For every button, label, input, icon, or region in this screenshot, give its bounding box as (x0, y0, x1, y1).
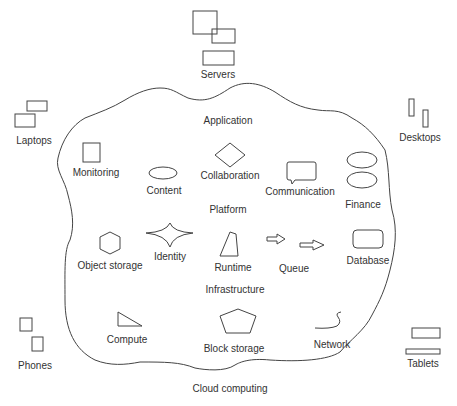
tablet-icon-1 (412, 328, 440, 338)
object-storage-label: Object storage (77, 260, 142, 272)
server-icon-1 (193, 11, 217, 34)
network-icon (315, 312, 341, 328)
block-storage-icon (220, 309, 256, 333)
phone-icon-1 (20, 318, 32, 331)
monitoring-icon (83, 143, 100, 162)
finance-icon-1 (347, 152, 377, 168)
server-icon-3 (203, 51, 234, 65)
finance-icon-2 (347, 172, 377, 188)
tablets-label: Tablets (407, 358, 439, 370)
servers-label: Servers (201, 69, 235, 81)
object-storage-icon (100, 232, 120, 254)
application-layer-label: Application (204, 115, 253, 127)
collaboration-icon (215, 143, 245, 167)
block-storage-label: Block storage (204, 343, 265, 355)
network-label: Network (314, 339, 351, 351)
laptops-label: Laptops (16, 135, 52, 147)
database-label: Database (347, 255, 390, 267)
desktop-icon-2 (423, 110, 428, 127)
finance-label: Finance (345, 199, 381, 211)
tablet-icon-2 (406, 349, 440, 354)
content-icon (149, 167, 177, 179)
collaboration-label: Collaboration (201, 170, 260, 182)
database-icon (353, 230, 383, 248)
compute-label: Compute (107, 334, 148, 346)
laptop-icon-2 (15, 114, 35, 127)
compute-icon (118, 312, 142, 326)
runtime-label: Runtime (214, 262, 251, 274)
phone-icon-2 (32, 337, 43, 351)
communication-label: Communication (265, 186, 334, 198)
monitoring-label: Monitoring (73, 167, 120, 179)
server-icon-2 (212, 29, 235, 43)
content-label: Content (146, 185, 181, 197)
queue-label: Queue (279, 263, 309, 275)
queue-arrow-icon-1 (267, 234, 285, 244)
queue-arrow-icon-2 (300, 240, 324, 250)
cloud-computing-label: Cloud computing (192, 383, 267, 395)
identity-icon (146, 223, 193, 247)
platform-layer-label: Platform (209, 204, 246, 216)
laptop-icon-1 (27, 101, 47, 111)
runtime-icon (220, 232, 238, 256)
communication-icon (287, 162, 316, 184)
desktops-label: Desktops (399, 132, 441, 144)
phones-label: Phones (18, 360, 52, 372)
infrastructure-layer-label: Infrastructure (206, 284, 265, 296)
desktop-icon-1 (409, 99, 414, 116)
identity-label: Identity (154, 251, 186, 263)
